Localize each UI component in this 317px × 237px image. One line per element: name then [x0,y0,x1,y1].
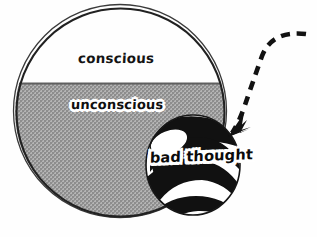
psyche-diagram: conscious unconscious bad thought [0,0,317,237]
bad-thought-ball [142,115,244,230]
diagram-canvas [0,0,317,237]
dashed-incoming-arrow [228,33,306,137]
